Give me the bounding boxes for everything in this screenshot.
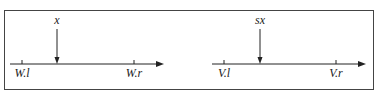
pointer-label-sx: sx [255,13,266,27]
left-panel: x W.l W.r [10,13,164,80]
tick-label-wl: W.l [14,66,30,80]
tick-label-wr: W.r [126,66,143,80]
down-arrow-icon [55,57,60,64]
right-axis-arrowhead-icon [358,61,366,67]
pointer-label-x: x [53,13,60,27]
down-arrow-icon [258,57,263,64]
diagram-canvas: x W.l W.r sx V.l V.r [0,0,378,96]
diagram-frame [5,11,374,90]
tick-label-vl: V.l [218,66,231,80]
left-axis-arrowhead-icon [156,61,164,67]
tick-label-vr: V.r [329,66,343,80]
right-panel: sx V.l V.r [212,13,366,80]
